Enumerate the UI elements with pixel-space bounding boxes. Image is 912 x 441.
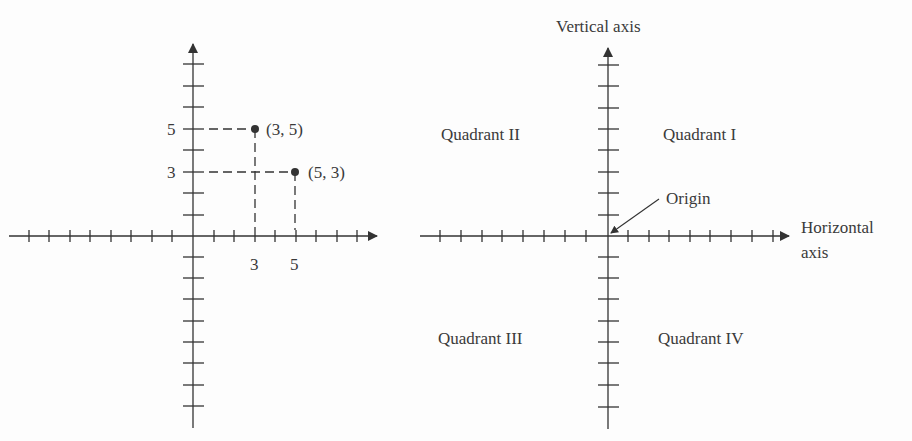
quadrant-1-label: Quadrant I [663, 125, 737, 144]
quadrant-3-label: Quadrant III [438, 329, 523, 348]
y-tick-label-5: 5 [167, 120, 176, 139]
horizontal-axis-label-line1: Horizontal [801, 218, 874, 237]
right-graph [420, 48, 789, 429]
point-5-3 [291, 168, 299, 176]
point-label-5-3: (5, 3) [308, 163, 345, 182]
horizontal-axis-label-line2: axis [801, 243, 828, 262]
point-label-3-5: (3, 5) [266, 120, 303, 139]
origin-label: Origin [666, 189, 711, 208]
x-tick-label-5: 5 [290, 255, 299, 274]
quadrant-4-label: Quadrant IV [658, 329, 744, 348]
point-3-5 [251, 125, 259, 133]
origin-pointer-arrow [611, 199, 659, 233]
vertical-axis-label: Vertical axis [556, 17, 641, 36]
x-tick-label-3: 3 [250, 255, 259, 274]
left-graph [9, 44, 377, 428]
diagram-canvas: 5 3 3 5 (3, 5) (5, 3) [0, 0, 912, 441]
y-tick-label-3: 3 [167, 163, 176, 182]
dashed-guides [209, 129, 295, 230]
coordinate-plane-diagram: 5 3 3 5 (3, 5) (5, 3) [0, 0, 912, 441]
quadrant-2-label: Quadrant II [441, 125, 520, 144]
